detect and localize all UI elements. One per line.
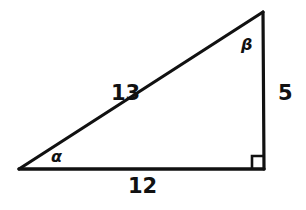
right-triangle-diagram: 13 12 5 α β [0,0,306,210]
height-side [263,12,264,169]
base-label: 12 [128,174,157,198]
angle-alpha-label: α [51,147,63,166]
angle-beta-label: β [240,35,252,54]
hypotenuse-label: 13 [111,81,140,105]
hypotenuse-side [19,12,263,169]
right-angle-marker [252,156,264,169]
height-label: 5 [278,81,293,105]
triangle [19,12,264,169]
